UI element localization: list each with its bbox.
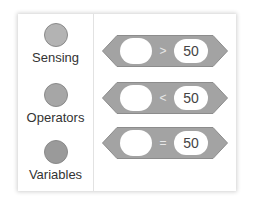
category-label: Variables <box>18 167 93 182</box>
operator-symbol: > <box>155 35 171 67</box>
category-sensing[interactable]: Sensing <box>18 23 93 65</box>
operator-symbol: = <box>155 127 171 159</box>
left-operand-input[interactable] <box>120 85 152 111</box>
left-operand-input[interactable] <box>120 38 152 64</box>
right-operand-input[interactable]: 50 <box>174 86 208 110</box>
left-operand-input[interactable] <box>120 130 152 156</box>
less-than-block[interactable]: < 50 <box>102 82 228 114</box>
palette-divider <box>93 14 94 191</box>
operator-symbol: < <box>155 82 171 114</box>
category-label: Sensing <box>18 50 93 65</box>
equals-block[interactable]: = 50 <box>102 127 228 159</box>
variables-dot-icon <box>44 140 68 164</box>
block-palette: Sensing Operators Variables > 50 < 50 = … <box>18 14 236 191</box>
right-operand-input[interactable]: 50 <box>174 131 208 155</box>
category-operators[interactable]: Operators <box>18 83 93 125</box>
greater-than-block[interactable]: > 50 <box>102 35 228 67</box>
right-operand-input[interactable]: 50 <box>174 39 208 63</box>
operators-dot-icon <box>44 83 68 107</box>
category-variables[interactable]: Variables <box>18 140 93 182</box>
sensing-dot-icon <box>44 23 68 47</box>
category-label: Operators <box>18 110 93 125</box>
